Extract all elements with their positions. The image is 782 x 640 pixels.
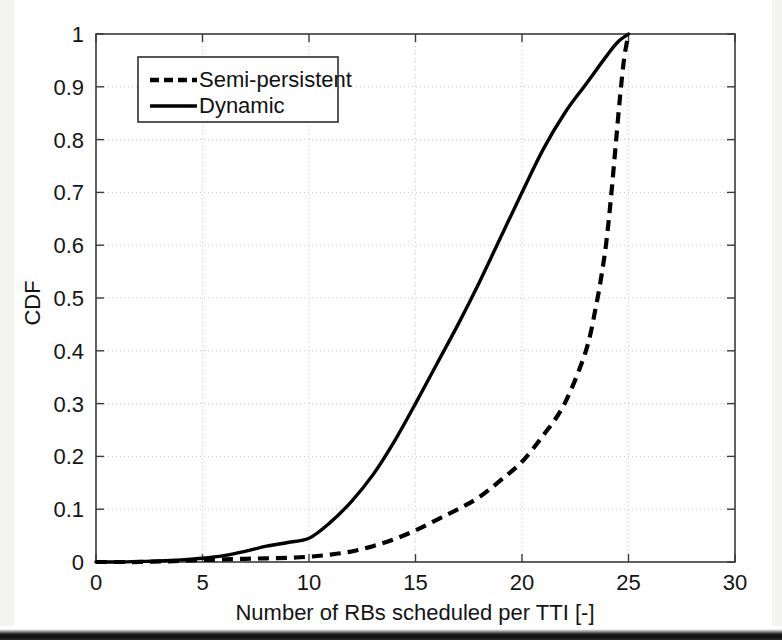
y-tick-label: 0.6: [53, 233, 84, 258]
x-tick-label: 20: [510, 570, 534, 595]
y-axis-title: CDF: [20, 280, 45, 325]
chart-legend: Semi-persistent Dynamic: [138, 57, 352, 122]
x-tick-label: 5: [196, 570, 208, 595]
y-tick-labels: 00.10.20.30.40.50.60.70.80.91: [53, 22, 84, 575]
y-tick-label: 0: [72, 550, 84, 575]
chart-svg: 051015202530 00.10.20.30.40.50.60.70.80.…: [0, 0, 782, 640]
x-tick-label: 10: [297, 570, 321, 595]
y-tick-label: 0.3: [53, 392, 84, 417]
x-tick-label: 25: [616, 570, 640, 595]
legend-label-dynamic: Dynamic: [199, 93, 285, 118]
cdf-chart: 051015202530 00.10.20.30.40.50.60.70.80.…: [0, 0, 782, 640]
x-tick-labels: 051015202530: [90, 570, 747, 595]
y-tick-label: 0.2: [53, 444, 84, 469]
x-tick-label: 0: [90, 570, 102, 595]
y-tick-label: 1: [72, 22, 84, 47]
y-tick-label: 0.1: [53, 497, 84, 522]
scanned-page: 051015202530 00.10.20.30.40.50.60.70.80.…: [0, 0, 782, 640]
x-tick-label: 30: [723, 570, 747, 595]
y-tick-label: 0.8: [53, 128, 84, 153]
scan-edge-band: [0, 626, 782, 640]
y-tick-label: 0.4: [53, 339, 84, 364]
x-tick-label: 15: [403, 570, 427, 595]
legend-label-semi-persistent: Semi-persistent: [199, 67, 352, 92]
y-tick-label: 0.7: [53, 180, 84, 205]
y-tick-label: 0.5: [53, 286, 84, 311]
y-tick-label: 0.9: [53, 75, 84, 100]
x-axis-title: Number of RBs scheduled per TTI [-]: [235, 600, 594, 625]
